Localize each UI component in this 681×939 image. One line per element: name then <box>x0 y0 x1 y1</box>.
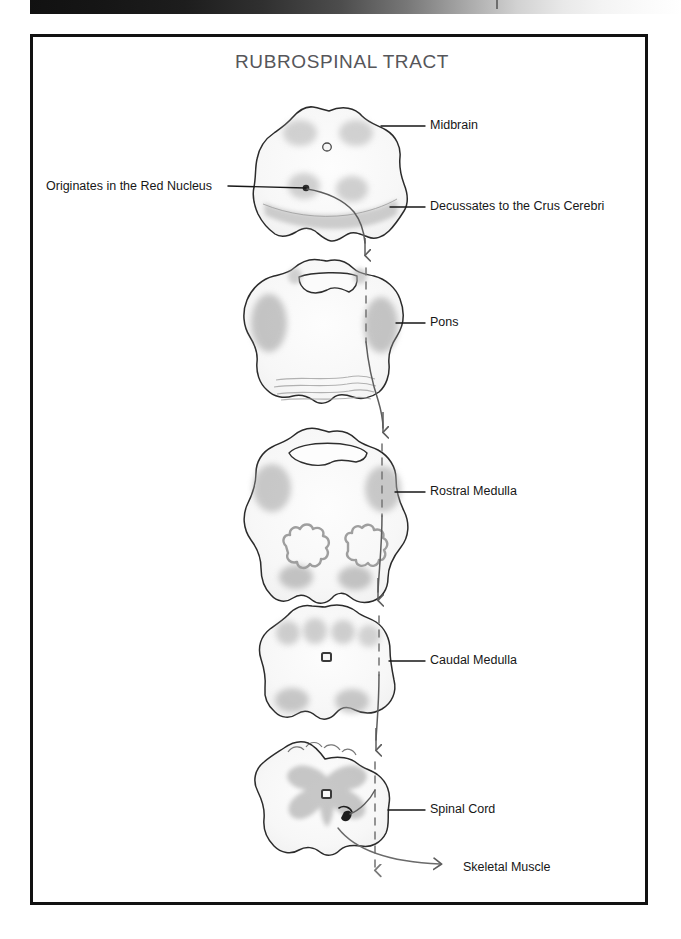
label-rostral-medulla: Rostral Medulla <box>430 484 517 498</box>
label-originates-red-nucleus: Originates in the Red Nucleus <box>46 179 212 193</box>
page-title: RUBROSPINAL TRACT <box>33 51 651 73</box>
label-midbrain: Midbrain <box>430 118 478 132</box>
scan-gradient-bar <box>0 0 681 14</box>
label-caudal-medulla: Caudal Medulla <box>430 653 517 667</box>
label-spinal-cord: Spinal Cord <box>430 802 495 816</box>
gradient-band <box>28 0 681 14</box>
strip-left-margin <box>0 0 30 14</box>
strip-tick-mark <box>496 0 498 9</box>
label-pons: Pons <box>430 315 459 329</box>
label-decussates-crus-cerebri: Decussates to the Crus Cerebri <box>430 199 604 213</box>
page-frame: RUBROSPINAL TRACT <box>30 34 648 905</box>
label-skeletal-muscle: Skeletal Muscle <box>463 860 551 874</box>
